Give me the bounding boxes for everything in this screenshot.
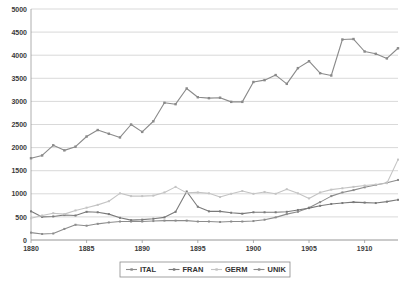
data-point-marker	[97, 211, 99, 213]
data-point-marker	[308, 197, 310, 199]
x-axis-tick-label: 1890	[134, 245, 150, 252]
data-point-marker	[275, 193, 277, 195]
data-point-marker	[364, 186, 366, 188]
data-point-marker	[286, 213, 288, 215]
data-point-marker	[252, 220, 254, 222]
y-axis-tick-label: 0	[23, 237, 27, 244]
data-point-marker	[375, 202, 377, 204]
data-point-marker	[41, 233, 43, 235]
data-point-marker	[30, 157, 32, 159]
data-point-marker	[275, 216, 277, 218]
data-point-marker	[141, 219, 143, 221]
data-point-marker	[397, 159, 399, 161]
data-point-marker	[353, 189, 355, 191]
x-axis-tick-label: 1895	[190, 245, 206, 252]
data-point-marker	[297, 67, 299, 69]
data-point-marker	[30, 210, 32, 212]
data-point-marker	[397, 199, 399, 201]
data-point-marker	[375, 53, 377, 55]
data-point-marker	[363, 50, 365, 52]
data-point-marker	[141, 131, 143, 133]
data-point-marker	[141, 195, 143, 197]
data-point-marker	[352, 38, 354, 40]
data-point-marker	[30, 217, 32, 219]
chart-legend: ITALFRANGERMUNIK	[120, 262, 290, 277]
series-ital	[30, 179, 399, 235]
y-axis-tick-label: 500	[15, 214, 27, 221]
data-point-marker	[230, 221, 232, 223]
data-point-marker	[119, 217, 121, 219]
data-point-marker	[230, 101, 232, 103]
legend-marker-germ	[215, 268, 217, 270]
y-axis-tick-label: 3000	[11, 98, 27, 105]
data-point-marker	[152, 220, 154, 222]
data-point-marker	[341, 187, 343, 189]
data-point-marker	[97, 223, 99, 225]
data-point-marker	[241, 213, 243, 215]
legend-marker-ital	[130, 268, 132, 270]
data-point-marker	[175, 186, 177, 188]
data-point-marker	[397, 47, 399, 49]
chart-canvas: 0500100015002000250030003500400045005000…	[0, 0, 403, 286]
data-point-marker	[364, 184, 366, 186]
data-point-marker	[219, 210, 221, 212]
data-point-marker	[274, 74, 276, 76]
data-point-marker	[319, 201, 321, 203]
data-point-marker	[141, 221, 143, 223]
data-point-marker	[208, 210, 210, 212]
data-point-marker	[330, 189, 332, 191]
x-axis-labels: 1880188518901895190019051910	[23, 240, 372, 252]
legend-label-fran[interactable]: FRAN	[183, 265, 204, 274]
data-point-marker	[208, 97, 210, 99]
data-point-marker	[219, 97, 221, 99]
data-point-marker	[108, 133, 110, 135]
series-line	[31, 191, 398, 220]
y-axis-labels: 0500100015002000250030003500400045005000	[11, 6, 27, 244]
data-point-marker	[152, 195, 154, 197]
data-point-marker	[264, 211, 266, 213]
data-point-marker	[85, 135, 87, 137]
data-point-marker	[30, 232, 32, 234]
legend-marker-fran	[173, 268, 175, 270]
data-point-marker	[52, 212, 54, 214]
data-series	[30, 38, 399, 235]
series-unik	[30, 38, 399, 160]
data-point-marker	[97, 204, 99, 206]
series-germ	[30, 159, 399, 220]
data-point-marker	[308, 207, 310, 209]
data-point-marker	[297, 211, 299, 213]
data-point-marker	[264, 191, 266, 193]
data-point-marker	[108, 221, 110, 223]
data-point-marker	[86, 207, 88, 209]
data-point-marker	[263, 79, 265, 81]
data-point-marker	[397, 179, 399, 181]
data-point-marker	[197, 221, 199, 223]
data-point-marker	[286, 211, 288, 213]
legend-label-germ[interactable]: GERM	[225, 265, 248, 274]
data-point-marker	[241, 190, 243, 192]
data-point-marker	[175, 220, 177, 222]
data-point-marker	[52, 144, 54, 146]
series-line	[31, 39, 398, 158]
data-point-marker	[330, 195, 332, 197]
data-point-marker	[286, 83, 288, 85]
legend-label-ital[interactable]: ITAL	[140, 265, 157, 274]
data-point-marker	[97, 129, 99, 131]
data-point-marker	[197, 191, 199, 193]
data-point-marker	[86, 211, 88, 213]
data-point-marker	[74, 215, 76, 217]
y-axis-tick-label: 4500	[11, 29, 27, 36]
data-point-marker	[252, 211, 254, 213]
data-point-marker	[341, 191, 343, 193]
data-point-marker	[241, 101, 243, 103]
data-point-marker	[208, 221, 210, 223]
data-point-marker	[252, 81, 254, 83]
data-point-marker	[275, 211, 277, 213]
data-point-marker	[252, 193, 254, 195]
data-point-marker	[74, 209, 76, 211]
x-axis-tick-label: 1905	[301, 245, 317, 252]
data-point-marker	[341, 38, 343, 40]
legend-label-unik[interactable]: UNIK	[268, 265, 287, 274]
y-axis-tick-label: 2500	[11, 121, 27, 128]
data-point-marker	[386, 57, 388, 59]
